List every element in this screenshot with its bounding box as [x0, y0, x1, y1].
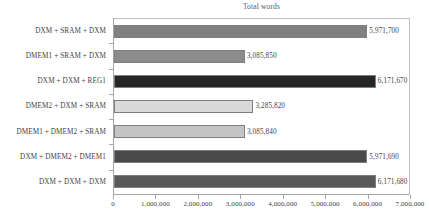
bar[interactable] [114, 100, 253, 113]
bar[interactable] [114, 75, 376, 88]
x-axis-tick [240, 195, 241, 199]
y-axis-label: DXM + SRAM + DXM [0, 18, 110, 43]
bar-row [114, 119, 409, 144]
x-axis-tick-label: 6,000,000 [353, 200, 382, 208]
y-axis-category-labels: DXM + SRAM + DXMDMEM1 + SRAM + DXMDXM + … [0, 18, 110, 195]
x-axis-tick-label: 4,000,000 [268, 200, 297, 208]
x-axis-tick-label: 1,000,000 [141, 200, 170, 208]
bar-row [114, 19, 409, 44]
plot-area [113, 18, 410, 195]
x-axis-tick [155, 195, 156, 199]
x-axis-tick-label: 0 [111, 200, 115, 208]
bars-layer [114, 19, 409, 194]
bar[interactable] [114, 175, 376, 188]
y-axis-label: DMEM2 + DXM + SRAM [0, 94, 110, 119]
bar-row [114, 44, 409, 69]
x-axis-tick-label: 5,000,000 [311, 200, 340, 208]
bar-row [114, 69, 409, 94]
y-axis-label: DMEM1 + SRAM + DXM [0, 43, 110, 68]
bar-row [114, 169, 409, 194]
x-axis-tick [113, 195, 114, 199]
bar-chart: Total words DXM + SRAM + DXMDMEM1 + SRAM… [0, 0, 429, 222]
bar[interactable] [114, 50, 245, 63]
bar[interactable] [114, 125, 245, 138]
x-axis-tick-label: 3,000,000 [226, 200, 255, 208]
x-axis-tick [410, 195, 411, 199]
bar[interactable] [114, 25, 367, 38]
y-axis-label: DXM + DXM + REG1 [0, 69, 110, 94]
x-axis-tick [283, 195, 284, 199]
y-axis-label: DXM + DMEM2 + DMEM1 [0, 144, 110, 169]
x-axis-tick [198, 195, 199, 199]
x-axis-tick [325, 195, 326, 199]
bar-row [114, 94, 409, 119]
chart-title: Total words [113, 2, 410, 11]
bar[interactable] [114, 150, 367, 163]
x-axis-tick-labels: 01,000,0002,000,0003,000,0004,000,0005,0… [113, 200, 410, 214]
y-axis-label: DXM + DXM + DXM [0, 170, 110, 195]
y-axis-label: DMEM1 + DMEM2 + SRAM [0, 119, 110, 144]
x-axis-tick-label: 7,000,000 [396, 200, 425, 208]
x-axis-tick [368, 195, 369, 199]
x-axis-tick-label: 2,000,000 [183, 200, 212, 208]
bar-row [114, 144, 409, 169]
